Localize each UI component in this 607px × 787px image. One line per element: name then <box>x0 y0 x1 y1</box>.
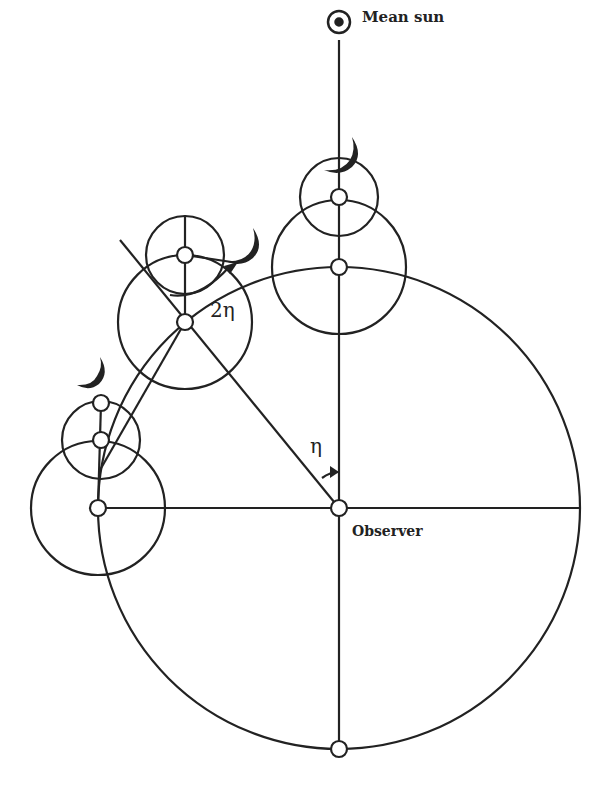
moon-icon-left <box>77 357 105 388</box>
left-center-point <box>90 500 106 516</box>
left-epicycle-point <box>93 432 109 448</box>
lunar-model-diagram <box>0 0 607 787</box>
observer-label: Observer <box>352 523 423 539</box>
observer-point <box>331 500 347 516</box>
left-moon-point <box>93 395 109 411</box>
middle-epicycle-point <box>177 247 193 263</box>
two-eta-angle-label: 2η <box>210 298 235 322</box>
middle-center-point <box>177 314 193 330</box>
moon-icon-middle <box>225 228 259 264</box>
line-middle-to-left <box>100 322 185 470</box>
mean-sun-label: Mean sun <box>362 8 444 26</box>
bottom-point <box>331 741 347 757</box>
top-center-point <box>331 259 347 275</box>
top-epicycle-point <box>331 189 347 205</box>
sun-icon <box>328 11 350 33</box>
moon-icon-top <box>324 137 358 173</box>
eta-arrowhead <box>330 466 339 478</box>
eta-angle-label: η <box>310 434 322 458</box>
left-epicycle-vertical <box>98 403 101 508</box>
